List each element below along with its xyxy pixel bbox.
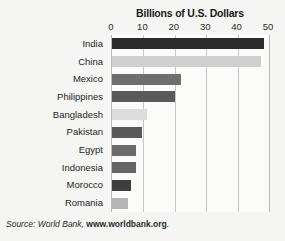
category-label-india: India [0, 38, 107, 49]
category-label-egypt: Egypt [0, 144, 107, 155]
category-label-philippines: Philippines [0, 91, 107, 102]
x-axis-tick-labels: 01020304050 [111, 21, 268, 34]
bar-indonesia [112, 162, 136, 173]
x-tick-label-20: 20 [169, 21, 180, 32]
bar-china [112, 56, 261, 67]
source-url: www.worldbank.org [86, 219, 166, 229]
x-tick-label-50: 50 [263, 21, 274, 32]
bars-group [112, 35, 269, 212]
chart-figure: Billions of U.S. Dollars 01020304050 Ind… [0, 0, 285, 241]
category-label-romania: Romania [0, 197, 107, 208]
category-label-indonesia: Indonesia [0, 162, 107, 173]
x-tick-label-30: 30 [200, 21, 211, 32]
bar-bangladesh [112, 109, 147, 120]
category-axis-labels: IndiaChinaMexicoPhilippinesBangladeshPak… [0, 35, 107, 212]
chart-title: Billions of U.S. Dollars [111, 7, 269, 19]
bar-egypt [112, 145, 136, 156]
category-label-bangladesh: Bangladesh [0, 109, 107, 120]
bar-india [112, 38, 264, 49]
bar-philippines [112, 91, 175, 102]
source-note: Source: World Bank, www.worldbank.org. [6, 219, 169, 229]
bar-romania [112, 198, 128, 209]
category-label-china: China [0, 56, 107, 67]
x-tick-label-40: 40 [231, 21, 242, 32]
source-suffix: . [167, 219, 169, 229]
plot-area [111, 35, 270, 212]
bar-morocco [112, 180, 131, 191]
x-tick-label-10: 10 [137, 21, 148, 32]
category-label-pakistan: Pakistan [0, 126, 107, 137]
bar-pakistan [112, 127, 142, 138]
category-label-morocco: Morocco [0, 179, 107, 190]
bar-mexico [112, 74, 181, 85]
category-label-mexico: Mexico [0, 73, 107, 84]
source-prefix: Source: World Bank, [6, 219, 86, 229]
x-tick-label-0: 0 [108, 21, 113, 32]
